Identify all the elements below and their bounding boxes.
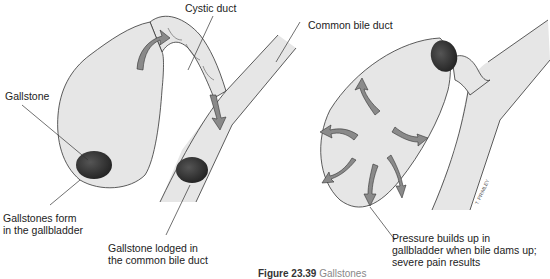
figure-title: Gallstones <box>319 268 366 279</box>
label-cystic-duct: Cystic duct <box>185 2 236 14</box>
gallstone-in-gallbladder <box>76 151 112 179</box>
label-pressure-line3: severe pain results <box>392 256 537 268</box>
right-panel: T. PRIMLEY <box>276 20 550 240</box>
left-panel <box>22 16 296 235</box>
gallstones-diagram: T. PRIMLEY Cystic duct Common bile duct … <box>0 0 550 279</box>
gallbladder-distended <box>321 38 451 207</box>
label-gallstone-lodged: Gallstone lodged in the common bile duct <box>108 242 208 266</box>
gallstone-lodged <box>176 157 208 183</box>
label-pressure: Pressure builds up in gallbladder when b… <box>392 232 537 268</box>
label-pressure-line1: Pressure builds up in <box>392 232 537 244</box>
figure-caption: Figure 23.39 Gallstones <box>258 268 366 279</box>
label-gallstones-form-line1: Gallstones form <box>3 212 83 224</box>
label-gallstones-form: Gallstones form in the gallbladder <box>3 212 83 236</box>
label-lodged-line2: the common bile duct <box>108 254 208 266</box>
label-common-bile-duct: Common bile duct <box>308 19 393 31</box>
label-gallstone: Gallstone <box>5 90 49 102</box>
label-gallstones-form-line2: in the gallbladder <box>3 224 83 236</box>
label-pressure-line2: gallbladder when bile dams up; <box>392 244 537 256</box>
label-lodged-line1: Gallstone lodged in <box>108 242 208 254</box>
figure-number: Figure 23.39 <box>258 268 316 279</box>
